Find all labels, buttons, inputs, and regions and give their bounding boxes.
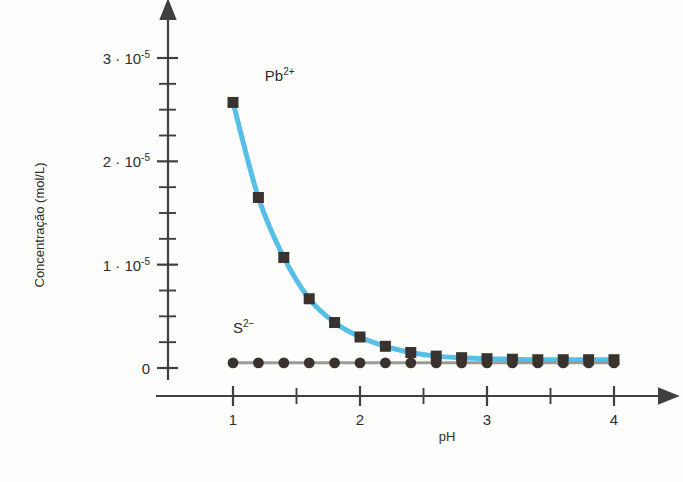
data-point — [431, 357, 442, 368]
x-tick-label-0: 1 — [229, 411, 237, 428]
y-tick-label-0: 0 — [142, 360, 150, 377]
data-point — [507, 357, 518, 368]
chart-background — [0, 0, 683, 482]
data-point — [405, 357, 416, 368]
x-tick-label-1: 2 — [356, 411, 364, 428]
data-point — [329, 357, 340, 368]
chart-figure: 01 · 10-52 · 10-53 · 10-5 1234 Pb2+S2− p… — [0, 0, 683, 482]
data-point — [380, 341, 391, 352]
data-point — [583, 357, 594, 368]
data-point — [253, 357, 264, 368]
x-tick-label-3: 4 — [610, 411, 618, 428]
data-point — [253, 192, 264, 203]
data-point — [355, 357, 366, 368]
x-tick-label-2: 3 — [483, 411, 491, 428]
data-point — [329, 317, 340, 328]
data-point — [278, 357, 289, 368]
data-point — [304, 293, 315, 304]
data-point — [355, 332, 366, 343]
data-point — [380, 357, 391, 368]
data-point — [278, 252, 289, 263]
data-point — [558, 357, 569, 368]
y-axis-title: Concentração (mol/L) — [32, 163, 47, 288]
data-point — [405, 347, 416, 358]
data-point — [304, 357, 315, 368]
x-axis-title: pH — [439, 429, 456, 444]
data-point — [456, 357, 467, 368]
data-point — [228, 97, 239, 108]
data-point — [609, 357, 620, 368]
data-point — [228, 357, 239, 368]
concentration-ph-chart: 01 · 10-52 · 10-53 · 10-5 1234 Pb2+S2− p… — [0, 0, 683, 482]
data-point — [482, 357, 493, 368]
data-point — [532, 357, 543, 368]
